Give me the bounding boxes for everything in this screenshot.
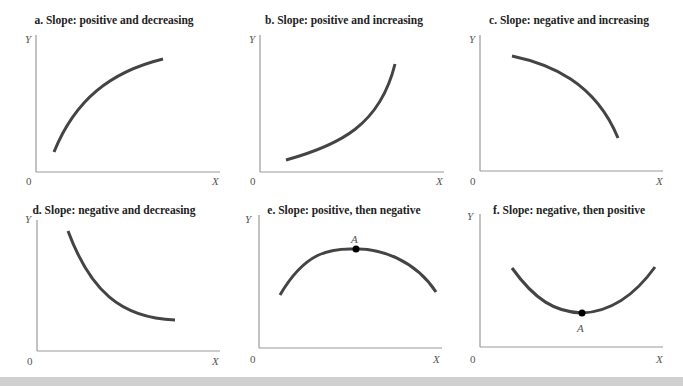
graph-e: Y X 0 A — [230, 190, 458, 386]
svg-text:X: X — [211, 355, 220, 367]
point-a — [353, 246, 360, 253]
panel-f: f. Slope: negative, then positive Y X 0 … — [455, 190, 683, 380]
panel-b: b. Slope: positive and increasing Y X 0 — [230, 0, 458, 190]
svg-text:X: X — [655, 175, 664, 187]
graph-c: Y X 0 — [455, 0, 683, 190]
panel-e: e. Slope: positive, then negative Y X 0 … — [230, 190, 458, 380]
panel-d: d. Slope: negative and decreasing Y X 0 — [0, 190, 228, 380]
svg-text:Y: Y — [25, 213, 33, 225]
origin-label: 0 — [26, 175, 32, 187]
graph-d: Y X 0 — [0, 190, 228, 386]
svg-text:0: 0 — [250, 353, 256, 365]
svg-text:A: A — [576, 322, 584, 334]
svg-text:0: 0 — [250, 175, 256, 187]
svg-text:0: 0 — [470, 353, 476, 365]
svg-text:Y: Y — [467, 210, 475, 222]
graph-f: Y X 0 A — [455, 190, 683, 386]
svg-text:Y: Y — [245, 213, 253, 225]
graph-a: Y X 0 — [0, 0, 228, 190]
svg-text:0: 0 — [470, 175, 476, 187]
svg-text:0: 0 — [27, 355, 33, 367]
svg-text:A: A — [350, 233, 358, 245]
x-axis-label: X — [211, 175, 220, 187]
panel-a: a. Slope: positive and decreasing Y X 0 — [0, 0, 228, 190]
curve — [54, 59, 163, 152]
svg-text:X: X — [655, 353, 664, 365]
svg-text:Y: Y — [469, 33, 477, 45]
svg-text:X: X — [432, 353, 441, 365]
point-a — [579, 310, 586, 317]
bottom-divider — [0, 377, 683, 386]
panel-c: c. Slope: negative and increasing Y X 0 — [455, 0, 683, 190]
y-axis-label: Y — [25, 33, 33, 45]
graph-b: Y X 0 — [230, 0, 458, 190]
svg-text:Y: Y — [249, 33, 257, 45]
svg-text:X: X — [435, 175, 444, 187]
